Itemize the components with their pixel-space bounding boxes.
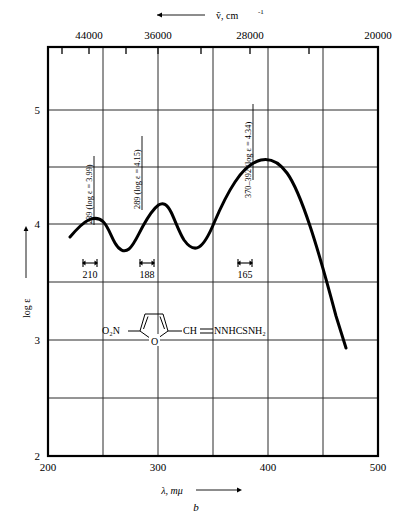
structure-ring-bond-c4-c5: [163, 314, 168, 331]
peak-annotation-3: 370–392 (log ε = 4.34): [244, 104, 253, 198]
top-tick-label-3: 20000: [364, 29, 392, 41]
y-axis-title-group: log ε: [21, 226, 32, 318]
y-axis-label: log ε: [21, 299, 32, 318]
width-marker-2: 188: [139, 259, 155, 280]
x-axis-title-group: λ, mμ: [160, 485, 242, 496]
peak-annotation-label-1: 239 (log ε = 3.99): [85, 164, 94, 224]
y-tick-labels: 5 4 3 2: [35, 104, 41, 462]
peak-annotation-2: 289 (log ε = 4.15): [133, 136, 142, 210]
x-tick-label-200: 200: [40, 461, 57, 473]
top-tick-label-2: 28000: [236, 29, 264, 41]
x-tick-labels: 200 300 400 500: [40, 461, 387, 473]
top-axis-label-group: ṽ, cm -1: [157, 8, 264, 21]
top-axis-arrow-head-icon: [157, 13, 162, 18]
width-marker-label-2: 188: [140, 269, 155, 280]
figure-label: b: [193, 501, 199, 513]
grid-lines: [48, 47, 378, 456]
spectrum-svg: ṽ, cm -1 44000 36000 28000 20000: [0, 0, 411, 519]
structure-tail-label: NNHCSNH₂: [214, 325, 266, 336]
y-axis-arrow-head-icon: [24, 226, 29, 231]
chemical-structure-diagram: O₂N O CH NNHCSNH₂: [102, 314, 266, 347]
x-tick-label-500: 500: [370, 461, 387, 473]
peak-annotation-label-2: 289 (log ε = 4.15): [133, 149, 142, 209]
structure-nitro-label: O₂N: [102, 325, 120, 336]
structure-ring-bond-c2-c3: [140, 314, 145, 331]
y-tick-label-5: 5: [35, 104, 41, 116]
top-tick-labels: 44000 36000 28000 20000: [75, 29, 392, 41]
y-tick-label-3: 3: [35, 334, 41, 346]
width-marker-label-1: 210: [83, 269, 98, 280]
peak-annotation-1: 239 (log ε = 3.99): [85, 156, 94, 225]
figure-uv-vis-spectrum: ṽ, cm -1 44000 36000 28000 20000: [0, 0, 411, 519]
x-axis-label: λ, mμ: [160, 485, 183, 496]
top-tick-label-0: 44000: [75, 29, 103, 41]
top-tick-label-1: 36000: [144, 29, 172, 41]
spectrum-curve: [70, 160, 346, 348]
structure-ch-label: CH: [183, 325, 197, 336]
width-marker-label-3: 165: [238, 269, 253, 280]
x-tick-label-400: 400: [260, 461, 277, 473]
peak-annotation-label-3: 370–392 (log ε = 4.34): [244, 122, 253, 198]
x-axis-arrow-head-icon: [237, 488, 242, 493]
y-tick-label-4: 4: [35, 218, 41, 230]
top-axis-label: ṽ, cm: [216, 10, 238, 21]
x-tick-label-300: 300: [150, 461, 167, 473]
structure-ring-oxygen-label: O: [151, 336, 158, 347]
width-marker-1: 210: [82, 259, 98, 280]
width-marker-3: 165: [237, 259, 253, 280]
top-axis-label-superscript: -1: [258, 8, 264, 16]
